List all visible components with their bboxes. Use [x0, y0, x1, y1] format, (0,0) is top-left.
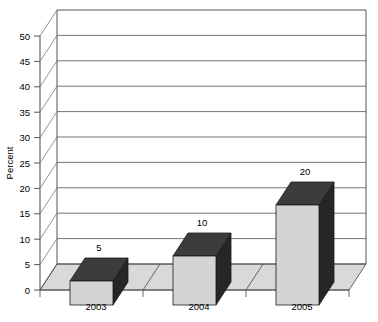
y-tick-label: 30 — [19, 132, 30, 143]
y-tick-label: 10 — [19, 234, 30, 245]
x-category-label-2004: 2004 — [188, 301, 209, 312]
y-tick-label: 5 — [25, 259, 30, 270]
bar-chart-3d: 0 5 10 15 20 25 30 35 40 45 50 Percent — [0, 0, 378, 322]
y-tick-label: 25 — [19, 158, 30, 169]
bar-value-label-2004: 10 — [197, 217, 208, 228]
y-tick-label: 45 — [19, 56, 30, 67]
y-tick-label: 15 — [19, 208, 30, 219]
y-tick-label: 35 — [19, 107, 30, 118]
x-category-label-2003: 2003 — [85, 301, 106, 312]
chart-container: 0 5 10 15 20 25 30 35 40 45 50 Percent — [0, 0, 378, 322]
bar-2005[interactable] — [276, 182, 334, 305]
y-tick-label: 40 — [19, 81, 30, 92]
y-tick-label: 50 — [19, 31, 30, 42]
bar-value-label-2005: 20 — [300, 166, 311, 177]
bar-value-label-2003: 5 — [96, 242, 101, 253]
y-tick-label: 20 — [19, 183, 30, 194]
bar-2004[interactable] — [173, 233, 231, 305]
y-tick-label: 0 — [25, 285, 30, 296]
y-axis-title: Percent — [4, 146, 15, 179]
x-category-label-2005: 2005 — [291, 301, 312, 312]
